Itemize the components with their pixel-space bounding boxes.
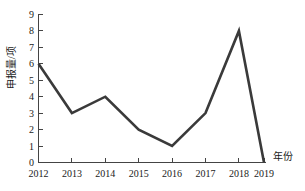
y-tick-label: 3	[29, 108, 34, 119]
y-tick-label: 9	[29, 9, 34, 20]
y-tick-marks	[39, 14, 44, 162]
y-tick-label: 4	[29, 91, 34, 102]
x-tick-label: 2013	[62, 168, 82, 179]
y-tick-label: 8	[29, 25, 34, 36]
x-tick-label: 2019	[254, 168, 274, 179]
x-tick-label: 2012	[29, 168, 49, 179]
y-tick-label: 0	[29, 157, 34, 168]
x-tick-marks	[39, 158, 265, 163]
x-tick-label: 2014	[95, 168, 115, 179]
y-tick-label: 1	[29, 141, 34, 152]
x-tick-label: 2015	[129, 168, 149, 179]
line-chart: 申报量/项 年份 0 1 2 3 4 5 6 7	[0, 0, 305, 191]
y-tick-label: 7	[29, 42, 34, 53]
data-series-line	[39, 31, 265, 163]
x-tick-label: 2016	[162, 168, 182, 179]
y-tick-label: 2	[29, 124, 34, 135]
x-tick-label: 2017	[196, 168, 216, 179]
x-tick-label: 2018	[229, 168, 249, 179]
plot-area: 0 1 2 3 4 5 6 7 8 9 2012 2013 2014	[0, 0, 305, 191]
y-tick-label: 6	[29, 58, 34, 69]
x-tick-labels: 2012 2013 2014 2015 2016 2017 2018 2019	[29, 168, 275, 179]
y-tick-label: 5	[29, 75, 34, 86]
y-tick-labels: 0 1 2 3 4 5 6 7 8 9	[29, 9, 34, 168]
